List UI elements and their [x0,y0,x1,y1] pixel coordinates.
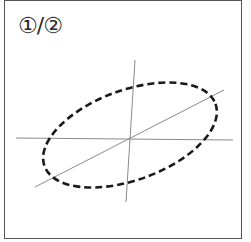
ellipse-diagram [0,0,251,242]
